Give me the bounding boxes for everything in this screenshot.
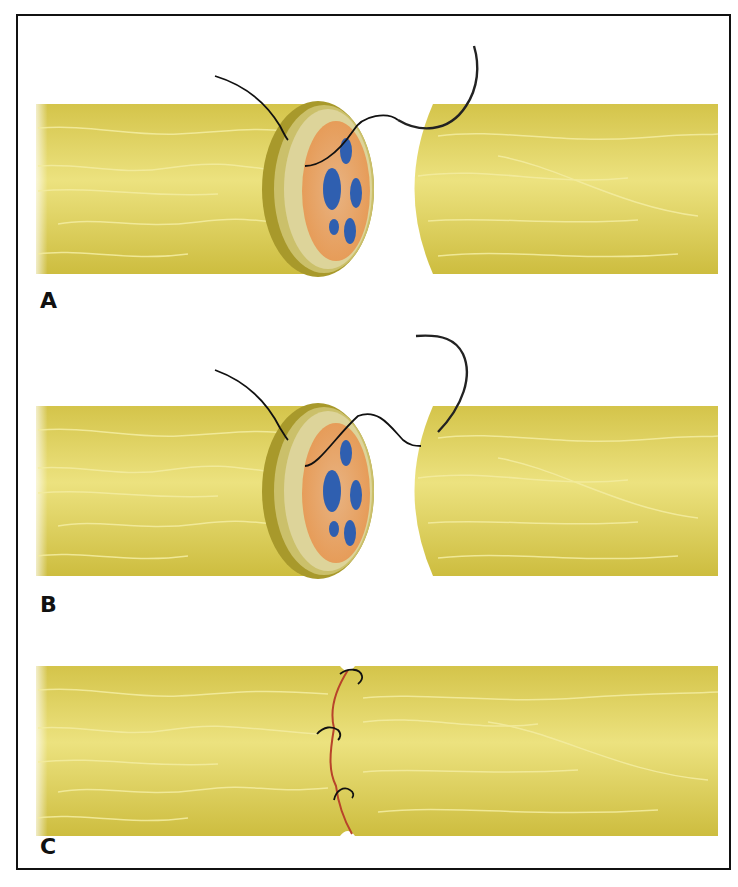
fascicle [340,138,352,164]
figure-frame: A [16,14,731,870]
panel-c-illustration [18,622,733,872]
fascicle [344,520,356,546]
fascicle [329,521,339,537]
fascicle [344,218,356,244]
fascicle [350,480,362,510]
panel-a: A [18,16,729,316]
fascicle [340,440,352,466]
distal-nerve-stump [415,406,719,576]
fascicle [323,470,341,512]
panel-b-illustration [18,316,733,622]
panel-b: B [18,316,729,622]
panel-a-illustration [18,16,733,316]
distal-nerve-stump [415,104,719,274]
coapted-nerve [36,666,718,836]
fascicle [323,168,341,210]
nerve-cross-section [262,101,374,277]
panel-label-b: B [40,592,57,617]
fascicle [350,178,362,208]
nerve-cross-section [262,403,374,579]
panel-c: C [18,622,729,872]
panel-label-a: A [40,288,57,313]
fascicle [329,219,339,235]
panel-label-c: C [40,834,56,859]
